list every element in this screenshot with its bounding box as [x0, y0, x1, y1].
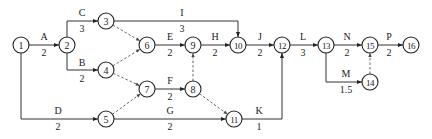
event-node-9: 9 — [185, 37, 201, 53]
node-number: 10 — [234, 41, 243, 51]
activity-name-j: J — [258, 31, 262, 42]
node-number: 2 — [65, 40, 70, 51]
activity-name-m: M — [342, 68, 351, 79]
activity-arrow-i — [114, 21, 238, 37]
node-number: 11 — [230, 115, 238, 125]
activity-duration-m: 1.5 — [340, 84, 353, 95]
network-diagram-canvas: A2C3B2D2I3E2H2J2F2G2K1L3N2M1.5P2 1234567… — [0, 0, 432, 139]
activity-name-e: E — [167, 31, 173, 42]
activity-name-p: P — [386, 31, 392, 42]
dummy-arrow-8-11 — [199, 94, 227, 115]
dummy-arrow-5-7 — [112, 94, 140, 115]
activity-duration-g: 2 — [168, 121, 173, 132]
event-node-4: 4 — [98, 62, 114, 78]
activity-name-c: C — [79, 7, 86, 18]
activity-name-i: I — [180, 7, 183, 18]
event-node-13: 13 — [318, 37, 334, 53]
node-number: 9 — [191, 40, 196, 51]
event-node-7: 7 — [139, 81, 155, 97]
event-node-14: 14 — [362, 74, 378, 90]
event-node-2: 2 — [59, 37, 75, 53]
activity-duration-b: 2 — [80, 73, 85, 84]
activity-duration-i: 3 — [180, 23, 185, 34]
activity-duration-a: 2 — [42, 47, 47, 58]
event-node-6: 6 — [139, 37, 155, 53]
node-number: 7 — [145, 84, 150, 95]
activity-duration-f: 2 — [168, 91, 173, 102]
event-node-16: 16 — [403, 37, 419, 53]
activity-name-h: H — [211, 31, 218, 42]
activity-duration-e: 2 — [168, 47, 173, 58]
activity-duration-h: 2 — [213, 47, 218, 58]
event-node-1: 1 — [13, 37, 29, 53]
activity-name-g: G — [166, 105, 173, 116]
node-number: 1 — [19, 40, 24, 51]
node-number: 4 — [104, 65, 109, 76]
dummy-arrow-4-7 — [113, 73, 139, 85]
activity-duration-n: 2 — [345, 47, 350, 58]
node-number: 16 — [407, 41, 416, 51]
dummy-arrow-3-6 — [113, 25, 140, 41]
node-number: 6 — [145, 40, 150, 51]
event-node-11: 11 — [226, 111, 242, 127]
activity-duration-p: 2 — [387, 47, 392, 58]
dummy-arrow-4-6 — [113, 49, 140, 66]
activity-duration-d: 2 — [56, 121, 61, 132]
activity-duration-l: 3 — [301, 47, 306, 58]
activity-duration-c: 3 — [80, 23, 85, 34]
node-number: 15 — [366, 41, 375, 51]
activity-name-d: D — [54, 105, 61, 116]
activity-name-n: N — [343, 31, 350, 42]
node-number: 13 — [322, 41, 331, 51]
node-number: 14 — [366, 78, 375, 88]
activity-duration-j: 2 — [258, 47, 263, 58]
activity-name-k: K — [255, 105, 263, 116]
event-node-15: 15 — [362, 37, 378, 53]
event-node-12: 12 — [274, 37, 290, 53]
node-number: 5 — [104, 114, 109, 125]
event-node-8: 8 — [185, 81, 201, 97]
event-node-5: 5 — [98, 111, 114, 127]
node-number: 12 — [278, 41, 286, 51]
activity-name-f: F — [167, 75, 173, 86]
event-node-10: 10 — [230, 37, 246, 53]
event-node-3: 3 — [98, 13, 114, 29]
activity-name-l: L — [300, 31, 306, 42]
activity-name-b: B — [79, 57, 86, 68]
node-number: 8 — [191, 84, 196, 95]
activity-name-a: A — [40, 31, 48, 42]
node-number: 3 — [104, 16, 109, 27]
network-diagram: A2C3B2D2I3E2H2J2F2G2K1L3N2M1.5P2 1234567… — [0, 0, 432, 139]
activity-duration-k: 1 — [257, 121, 262, 132]
